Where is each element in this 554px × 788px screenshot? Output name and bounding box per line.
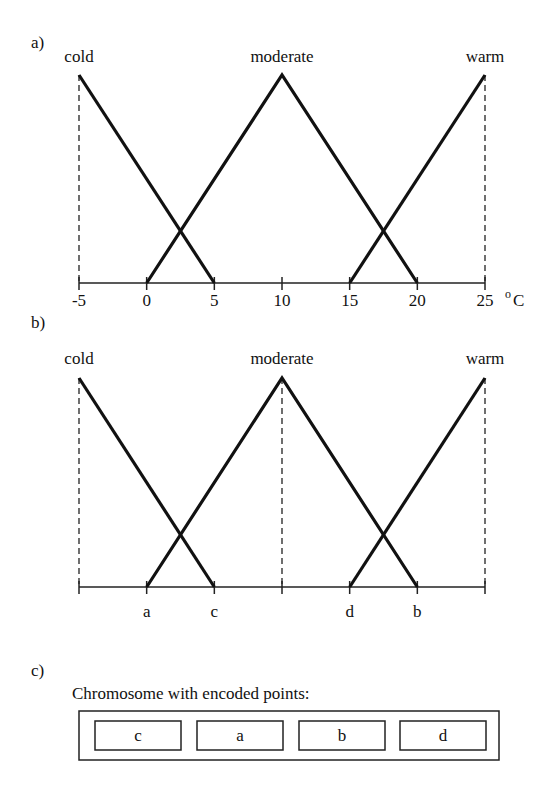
membership-function-warm	[350, 75, 485, 283]
gene-slot: d	[400, 721, 486, 750]
membership-function-warm	[350, 378, 485, 587]
gene-label: b	[338, 726, 347, 745]
x-tick-label: 15	[341, 291, 358, 310]
panel-a: a) coldmoderatewarm -50510152025 o C	[31, 33, 524, 310]
set-label-cold: cold	[64, 349, 94, 368]
set-label-moderate: moderate	[250, 349, 313, 368]
figure: a) coldmoderatewarm -50510152025 o C b) …	[0, 0, 554, 788]
gene-label: d	[439, 726, 448, 745]
x-tick-label: -5	[72, 291, 86, 310]
x-tick-label: 25	[477, 291, 494, 310]
gene-slot: b	[299, 721, 385, 750]
gene-slot: a	[197, 721, 283, 750]
membership-function-moderate	[147, 75, 418, 283]
panel-a-label: a)	[31, 33, 44, 52]
chromosome-title: Chromosome with encoded points:	[72, 684, 310, 703]
panel-b-label: b)	[31, 313, 45, 332]
gene-slot: c	[95, 721, 181, 750]
x-tick-label: d	[345, 602, 354, 621]
gene-label: c	[134, 726, 142, 745]
degree-superscript: o	[505, 287, 511, 301]
x-tick-label: 10	[274, 291, 291, 310]
gene-label: a	[236, 726, 244, 745]
x-tick-label: a	[143, 602, 151, 621]
chromosome-box	[79, 711, 499, 760]
set-label-cold: cold	[64, 47, 94, 66]
panel-b: b) coldmoderatewarm acdb	[31, 313, 504, 621]
x-tick-label: 0	[142, 291, 151, 310]
membership-function-cold	[79, 378, 214, 587]
set-label-warm: warm	[466, 349, 505, 368]
set-label-warm: warm	[466, 47, 505, 66]
membership-function-cold	[79, 75, 214, 283]
x-tick-label: 20	[409, 291, 426, 310]
set-label-moderate: moderate	[250, 47, 313, 66]
unit-celsius: C	[513, 291, 524, 310]
panel-c-label: c)	[31, 661, 44, 680]
x-tick-label: 5	[210, 291, 219, 310]
x-tick-label: c	[211, 602, 219, 621]
panel-c: c) Chromosome with encoded points: cabd	[31, 661, 499, 760]
x-tick-label: b	[413, 602, 422, 621]
unit-label: o C	[505, 287, 524, 310]
